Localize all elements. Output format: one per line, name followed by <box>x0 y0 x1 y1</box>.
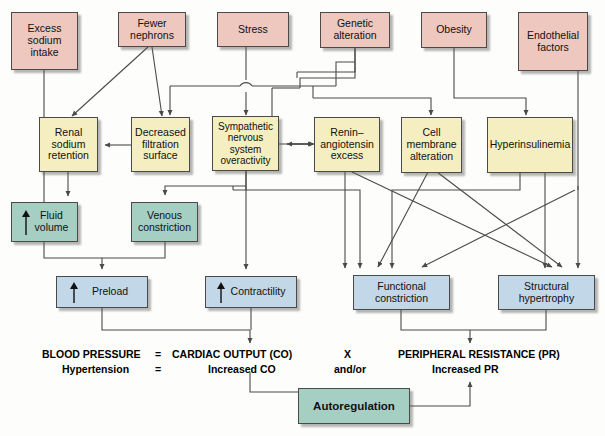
increase-arrow-icon <box>216 282 226 304</box>
node-excess-sodium-intake[interactable]: Excesssodiumintake <box>11 12 78 70</box>
node-fluid-volume-label: Fluidvolume <box>32 210 72 234</box>
node-stress[interactable]: Stress <box>217 12 289 47</box>
node-fluid-volume[interactable]: Fluidvolume <box>11 202 78 242</box>
increase-arrow-icon <box>69 282 79 304</box>
node-renal-sodium-retention-label: Renalsodiumretention <box>45 127 92 162</box>
node-genetic-alteration[interactable]: Geneticalteration <box>320 12 390 48</box>
equation-peripheral-resistance-label: PERIPHERAL RESISTANCE (PR) <box>398 348 560 360</box>
node-hyperinsulinemia-label: Hyperinsulinemia <box>487 139 574 151</box>
node-obesity[interactable]: Obesity <box>421 12 487 48</box>
node-endothelial-factors[interactable]: Endothelialfactors <box>518 12 588 71</box>
equation-increased-co-label: Increased CO <box>208 363 276 375</box>
node-autoregulation-label: Autoregulation <box>310 400 398 413</box>
equation-times-label: X <box>344 348 351 360</box>
node-renin-angiotensin-excess-label: Renin–angiotensinexcess <box>317 127 377 162</box>
node-autoregulation[interactable]: Autoregulation <box>298 388 410 424</box>
node-functional-constriction-label: Functionalconstriction <box>372 281 431 305</box>
node-stress-label: Stress <box>235 24 271 36</box>
node-endothelial-factors-label: Endothelialfactors <box>524 30 582 54</box>
equation-hypertension-label: Hypertension <box>62 363 129 375</box>
hypertension-pathophysiology-diagram: Excesssodiumintake Fewernephrons Stress … <box>0 0 605 436</box>
equation-blood-pressure-label: BLOOD PRESSURE <box>42 348 141 360</box>
increase-arrow-icon <box>21 210 31 236</box>
node-decreased-filtration-surface-label: Decreasedfiltrationsurface <box>132 127 189 162</box>
node-contractility[interactable]: Contractility <box>205 276 297 308</box>
node-genetic-alteration-label: Geneticalteration <box>330 18 379 42</box>
node-obesity-label: Obesity <box>433 24 475 36</box>
node-contractility-label: Contractility <box>228 286 289 298</box>
node-structural-hypertrophy-label: Structuralhypertrophy <box>516 281 577 305</box>
node-excess-sodium-intake-label: Excesssodiumintake <box>25 23 65 58</box>
equation-equals-1: = <box>155 348 161 360</box>
node-renin-angiotensin-excess[interactable]: Renin–angiotensinexcess <box>314 117 380 172</box>
equation-and-or-label: and/or <box>334 363 366 375</box>
node-sympathetic-nervous-system-overactivity[interactable]: Sympatheticnervoussystemoveractivity <box>212 116 279 171</box>
node-decreased-filtration-surface[interactable]: Decreasedfiltrationsurface <box>131 117 190 172</box>
equation-increased-pr-label: Increased PR <box>432 363 499 375</box>
node-venous-constriction-label: Venousconstriction <box>135 210 194 234</box>
node-preload-label: Preload <box>89 286 131 298</box>
node-structural-hypertrophy[interactable]: Structuralhypertrophy <box>498 275 595 310</box>
node-renal-sodium-retention[interactable]: Renalsodiumretention <box>39 117 98 172</box>
node-fewer-nephrons-label: Fewernephrons <box>127 18 177 42</box>
equation-equals-2: = <box>155 363 161 375</box>
node-hyperinsulinemia[interactable]: Hyperinsulinemia <box>487 117 573 173</box>
node-cell-membrane-alteration[interactable]: Cellmembranealteration <box>401 117 462 173</box>
node-preload[interactable]: Preload <box>56 276 148 308</box>
node-functional-constriction[interactable]: Functionalconstriction <box>353 275 450 310</box>
node-fewer-nephrons[interactable]: Fewernephrons <box>118 12 186 47</box>
equation-cardiac-output-label: CARDIAC OUTPUT (CO) <box>172 348 292 360</box>
node-venous-constriction[interactable]: Venousconstriction <box>131 202 198 242</box>
node-sympathetic-nervous-system-overactivity-label: Sympatheticnervoussystemoveractivity <box>215 121 276 166</box>
node-cell-membrane-alteration-label: Cellmembranealteration <box>403 127 459 162</box>
